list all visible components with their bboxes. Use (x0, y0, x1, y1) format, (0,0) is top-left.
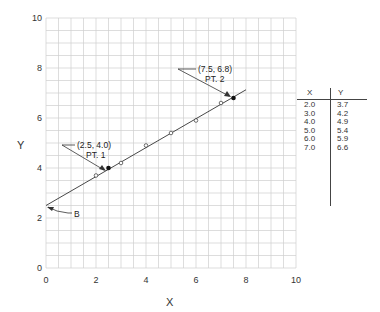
pt2-coords: (7.5, 6.8) (198, 64, 232, 74)
annotation-intercept: B (47, 207, 80, 219)
svg-text:8: 8 (37, 63, 42, 73)
svg-text:2: 2 (37, 213, 42, 223)
svg-text:0: 0 (43, 275, 48, 285)
svg-text:6: 6 (37, 113, 42, 123)
svg-text:10: 10 (32, 13, 42, 23)
data-table: X Y 2.03.7 3.04.2 4.04.9 5.05.4 6.05.9 7… (297, 88, 367, 206)
table-header-x: X (307, 88, 312, 97)
cell-x: 7.0 (297, 144, 330, 153)
intercept-label: B (74, 209, 80, 219)
table-row: 7.06.6 (297, 144, 367, 153)
pt1-name: PT. 1 (86, 150, 106, 160)
svg-text:2: 2 (93, 275, 98, 285)
table-header-y: Y (338, 88, 343, 97)
y-axis-label: Y (17, 139, 25, 151)
svg-text:0: 0 (37, 263, 42, 273)
pt1-coords: (2.5, 4.0) (77, 140, 111, 150)
arrow-icon (47, 207, 54, 211)
axis-ticks: 02468100246810 (32, 13, 301, 285)
x-axis-label: X (166, 296, 174, 308)
svg-text:4: 4 (37, 163, 42, 173)
cell-y: 6.6 (330, 144, 348, 153)
svg-text:6: 6 (193, 275, 198, 285)
svg-text:10: 10 (291, 275, 301, 285)
svg-text:8: 8 (243, 275, 248, 285)
svg-text:4: 4 (143, 275, 148, 285)
pt2-name: PT. 2 (205, 74, 225, 84)
